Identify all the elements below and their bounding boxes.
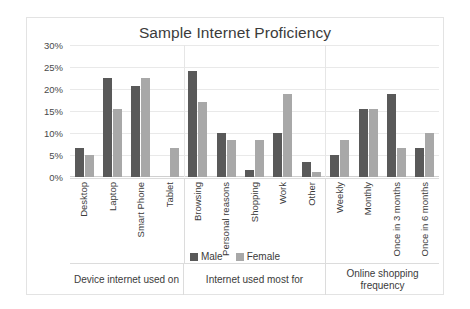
category-label-text: Laptop [108, 182, 118, 211]
category-label: Once in 6 months [411, 179, 439, 263]
y-axis-tick-20: 20% [44, 84, 63, 95]
chart-container: Sample Internet Proficiency 30%25%20%15%… [26, 17, 444, 295]
bar-group [326, 45, 354, 177]
bar-group [70, 45, 98, 177]
category-label: Laptop [98, 179, 126, 263]
bar-female [227, 140, 236, 177]
category-label-text: Other [307, 182, 317, 206]
bar-male [330, 155, 339, 177]
category-label: Other [297, 179, 325, 263]
bar-group [184, 45, 212, 177]
bar-male [387, 94, 396, 177]
bar-group [411, 45, 439, 177]
group-label-band: Device internet used onInternet used mos… [70, 263, 439, 295]
group-separator [325, 45, 326, 177]
bar-female [255, 140, 264, 177]
bar-female [113, 109, 122, 177]
bar-female [425, 133, 434, 177]
bar-group [297, 45, 325, 177]
plot-area [70, 45, 439, 177]
bar-male [217, 133, 226, 177]
bar-group [98, 45, 126, 177]
category-label-text: Once in 6 months [420, 182, 430, 256]
y-axis-tick-labels: 30%25%20%15%10%5%0% [27, 45, 67, 177]
bar-male [103, 78, 112, 177]
category-label: Desktop [70, 179, 98, 263]
bar-female [340, 140, 349, 177]
category-label: Browsing [184, 179, 212, 263]
bar-series-area [70, 45, 439, 177]
group-separator [184, 45, 185, 177]
category-label: Tablet [155, 179, 183, 263]
category-label: Monthly [354, 179, 382, 263]
bar-female [170, 148, 179, 177]
category-label: Work [269, 179, 297, 263]
bar-male [415, 148, 424, 177]
bar-group [155, 45, 183, 177]
category-label: Smart Phone [127, 179, 155, 263]
y-axis-tick-30: 30% [44, 40, 63, 51]
bar-male [131, 86, 140, 177]
group-separator [184, 179, 185, 263]
category-label-text: Work [278, 182, 288, 204]
bar-female [198, 102, 207, 177]
bar-female [141, 78, 150, 177]
bar-group [354, 45, 382, 177]
bar-group [382, 45, 410, 177]
bar-group [240, 45, 268, 177]
bar-male [245, 170, 254, 177]
group-label: Online shopping frequency [325, 264, 439, 295]
bar-female [369, 109, 378, 177]
category-label-text: Browsing [193, 182, 203, 221]
category-label: Weekly [326, 179, 354, 263]
bar-group [212, 45, 240, 177]
group-label: Device internet used on [70, 264, 183, 295]
bar-group [127, 45, 155, 177]
group-label: Internet used most for [183, 264, 325, 295]
bar-female [85, 155, 94, 177]
category-label-text: Desktop [79, 182, 89, 217]
bar-group [269, 45, 297, 177]
category-label-text: Personal reasons [221, 182, 231, 256]
bar-male [359, 109, 368, 177]
category-label: Personal reasons [212, 179, 240, 263]
bar-female [397, 148, 406, 177]
category-label-text: Smart Phone [136, 182, 146, 237]
bar-male [188, 71, 197, 177]
y-axis-tick-5: 5% [49, 150, 63, 161]
chart-title: Sample Internet Proficiency [27, 24, 443, 42]
y-axis-tick-25: 25% [44, 62, 63, 73]
category-label-text: Shopping [250, 182, 260, 222]
y-axis-tick-0: 0% [49, 172, 63, 183]
category-label-text: Weekly [335, 182, 345, 213]
category-label-band: DesktopLaptopSmart PhoneTabletBrowsingPe… [70, 178, 439, 263]
category-label: Once in 3 months [382, 179, 410, 263]
bar-female [312, 172, 321, 177]
bar-male [273, 133, 282, 177]
y-axis-tick-15: 15% [44, 106, 63, 117]
y-axis-tick-10: 10% [44, 128, 63, 139]
bar-male [75, 148, 84, 177]
bar-female [283, 94, 292, 177]
category-label: Shopping [240, 179, 268, 263]
category-label-text: Monthly [363, 182, 373, 215]
group-separator [325, 179, 326, 263]
category-label-text: Tablet [165, 182, 175, 207]
category-label-text: Once in 3 months [392, 182, 402, 256]
bar-male [302, 162, 311, 177]
